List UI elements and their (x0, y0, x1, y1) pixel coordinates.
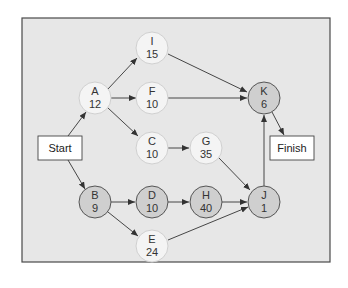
node-value: 15 (146, 48, 158, 60)
finish-label: Finish (277, 142, 306, 154)
node-letter: H (202, 189, 210, 201)
node-letter: G (202, 135, 211, 147)
node-k: K 6 (248, 82, 280, 114)
node-letter: B (91, 189, 98, 201)
node-i: I 15 (136, 32, 168, 64)
node-value: 9 (92, 202, 98, 214)
node-letter: I (150, 35, 153, 47)
node-value: 35 (200, 148, 212, 160)
node-d: D 10 (136, 186, 168, 218)
node-h: H 40 (190, 186, 222, 218)
activity-network-diagram: Start Finish I 15 A 12 F 10 C 10 G 35 K … (0, 0, 348, 288)
node-b: B 9 (79, 186, 111, 218)
node-letter: J (261, 189, 267, 201)
node-value: 1 (261, 202, 267, 214)
node-g: G 35 (190, 132, 222, 164)
node-f: F 10 (136, 82, 168, 114)
finish-box: Finish (270, 136, 314, 160)
node-value: 12 (89, 98, 101, 110)
node-c: C 10 (136, 132, 168, 164)
node-value: 10 (146, 148, 158, 160)
node-value: 24 (146, 246, 158, 258)
node-letter: C (148, 135, 156, 147)
start-label: Start (48, 142, 71, 154)
node-letter: F (149, 85, 156, 97)
node-e: E 24 (136, 230, 168, 262)
node-value: 10 (146, 202, 158, 214)
node-value: 6 (261, 98, 267, 110)
start-box: Start (38, 136, 82, 160)
node-value: 10 (146, 98, 158, 110)
node-j: J 1 (248, 186, 280, 218)
node-letter: K (260, 85, 268, 97)
node-letter: A (91, 85, 99, 97)
node-letter: D (148, 189, 156, 201)
node-letter: E (148, 233, 155, 245)
node-value: 40 (200, 202, 212, 214)
node-a: A 12 (79, 82, 111, 114)
